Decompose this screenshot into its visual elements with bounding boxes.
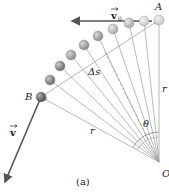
svg-text:v: v: [110, 10, 118, 21]
label-point-b: B: [24, 91, 32, 102]
radial-lines: [41, 20, 159, 162]
label-point-a: A: [154, 1, 162, 12]
svg-text:0: 0: [118, 15, 122, 22]
label-arc-length: Δs: [87, 66, 100, 77]
label-radius-right: r: [162, 83, 168, 94]
svg-text:v: v: [9, 127, 17, 138]
ball-a: [154, 15, 164, 25]
figure-caption: (a): [76, 176, 90, 187]
final-velocity-arrow: [5, 97, 41, 182]
label-origin: O: [162, 168, 169, 179]
ball-b: [36, 92, 46, 102]
label-angle: θ: [143, 118, 149, 129]
circular-motion-diagram: A B O r r Δs θ v 0 v (a): [0, 0, 169, 192]
label-final-velocity: v: [9, 125, 17, 139]
label-initial-velocity: v 0: [110, 8, 122, 23]
bisector-dashed-line: [104, 50, 159, 162]
